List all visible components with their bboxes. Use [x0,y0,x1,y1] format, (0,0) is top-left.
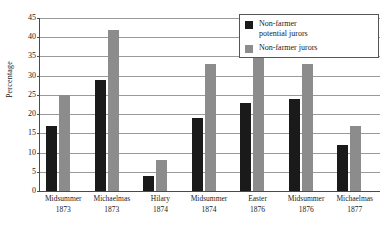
chart-legend: Non-farmer potential jurors Non-farmer j… [239,14,379,58]
x-axis-labels: Midsummer1873Michaelmas1873Hilary1874Mid… [39,193,379,227]
y-tick-label: 20 [28,110,36,118]
x-tick-year: 1873 [88,204,137,215]
y-tick-mark [37,191,40,192]
x-tick-label: Easter1876 [233,193,282,215]
x-tick-year: 1876 [233,204,282,215]
bar [350,126,361,191]
legend-label: Non-farmer jurors [259,43,317,53]
x-tick-label: Midsummer1874 [185,193,234,215]
y-tick-label: 40 [28,33,36,41]
bar [337,145,348,191]
y-tick-label: 5 [32,168,36,176]
x-tick-label: Midsummer1873 [39,193,88,215]
x-tick-term: Hilary [151,194,170,203]
bar [240,103,251,191]
x-tick-year: 1873 [39,204,88,215]
x-tick-term: Michaelmas [94,194,131,203]
y-axis-title: Percentage [5,40,14,120]
x-tick-term: Midsummer [191,194,228,203]
y-tick-label: 0 [32,187,36,195]
bar [143,176,154,191]
bar [205,64,216,191]
x-tick-term: Easter [248,194,267,203]
y-tick-label: 45 [28,14,36,22]
x-tick-term: Midsummer [288,194,325,203]
bar [95,80,106,191]
legend-label-line2: potential jurors [259,29,308,38]
legend-item: Non-farmer jurors [245,43,373,53]
bar [289,99,300,191]
bar [59,95,70,191]
legend-label-line1: Non-farmer jurors [259,43,317,52]
legend-label-line1: Non-farmer [259,19,297,28]
bar-chart: Percentage 051015202530354045 Midsummer1… [0,0,389,229]
x-tick-label: Hilary1874 [136,193,185,215]
bar [302,64,313,191]
legend-item: Non-farmer potential jurors [245,19,373,39]
bar-group [89,18,138,191]
bar-group [40,18,89,191]
x-tick-year: 1874 [136,204,185,215]
x-tick-label: Midsummer1876 [282,193,331,215]
x-tick-year: 1877 [330,204,379,215]
legend-swatch-icon [245,45,253,53]
x-tick-label: Michaelmas1877 [330,193,379,215]
bar [108,30,119,191]
x-tick-term: Midsummer [45,194,82,203]
bar [192,118,203,191]
x-tick-year: 1876 [282,204,331,215]
x-tick-term: Michaelmas [336,194,373,203]
y-tick-label: 35 [28,52,36,60]
bar [46,126,57,191]
bar-group [186,18,235,191]
x-tick-year: 1874 [185,204,234,215]
bar [156,160,167,191]
bar-group [137,18,186,191]
y-tick-label: 15 [28,129,36,137]
x-tick-label: Michaelmas1873 [88,193,137,215]
y-tick-label: 30 [28,72,36,80]
legend-swatch-icon [245,21,253,29]
legend-label: Non-farmer potential jurors [259,19,308,39]
y-tick-label: 10 [28,149,36,157]
y-tick-label: 25 [28,91,36,99]
